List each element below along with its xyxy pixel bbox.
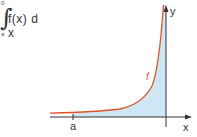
shaded-area — [73, 5, 166, 117]
curve-label-f: f — [146, 71, 150, 82]
tick-label-a: a — [70, 120, 77, 132]
y-axis-label: y — [170, 5, 176, 17]
function-graph: y x a f — [0, 0, 197, 137]
x-axis-arrow-icon — [185, 115, 192, 120]
x-axis-label: x — [183, 121, 189, 133]
